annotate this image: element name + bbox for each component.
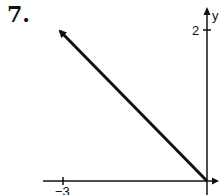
y-axis-arrow-icon (204, 7, 211, 15)
plotted-line (60, 31, 207, 181)
y-tick-2: 2 (192, 23, 211, 38)
y-axis-label: y (212, 8, 219, 23)
x-tick-label: −3 (55, 184, 70, 195)
x-tick-neg3: −3 (55, 177, 70, 195)
x-axis-arrow-icon (212, 178, 219, 185)
coordinate-graph: −3 y 2 (0, 0, 219, 195)
y-axis: y (204, 7, 220, 195)
y-tick-label: 2 (192, 23, 199, 38)
